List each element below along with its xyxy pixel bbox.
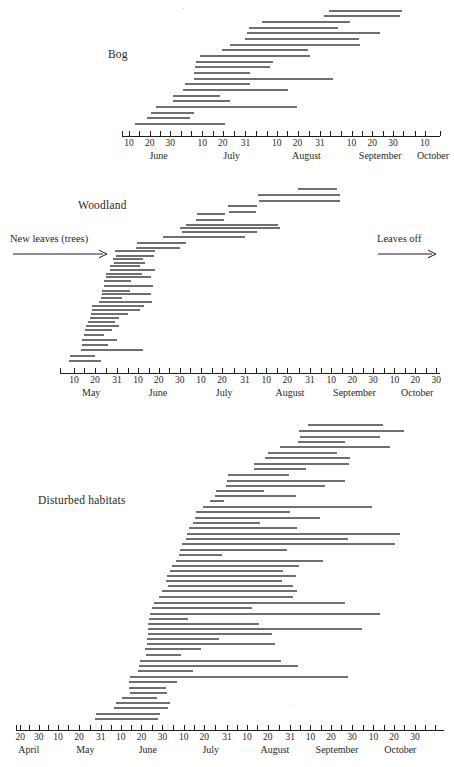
axis-tick-label: 30 bbox=[368, 375, 378, 385]
axis-month-label: June bbox=[149, 387, 167, 398]
axis-tick bbox=[106, 368, 107, 373]
span-bar bbox=[115, 250, 155, 252]
span-bar bbox=[114, 707, 168, 709]
span-bar bbox=[82, 344, 108, 346]
axis-month-label: September bbox=[316, 744, 359, 755]
axis-tick bbox=[277, 368, 278, 373]
span-bar bbox=[151, 112, 194, 114]
span-bar bbox=[228, 205, 257, 207]
span-bar bbox=[189, 527, 297, 529]
axis-baseline bbox=[60, 373, 440, 374]
axis-month-label: July bbox=[223, 150, 240, 161]
span-bar bbox=[203, 506, 372, 508]
span-bar bbox=[193, 522, 260, 524]
span-bar bbox=[101, 297, 122, 299]
span-bar bbox=[152, 607, 252, 609]
span-bar bbox=[90, 317, 119, 319]
axis-tick-label: 31 bbox=[96, 732, 106, 742]
span-bar bbox=[148, 628, 362, 630]
axis-tick bbox=[362, 131, 363, 136]
axis-tick bbox=[162, 725, 163, 730]
axis-tick bbox=[129, 131, 130, 136]
axis-tick bbox=[352, 368, 353, 373]
axis-tick-label: 20 bbox=[347, 375, 357, 385]
arrow-right-icon bbox=[13, 249, 109, 259]
span-bar bbox=[265, 457, 350, 459]
axis-tick-label: 31 bbox=[240, 375, 250, 385]
span-bar bbox=[194, 78, 333, 80]
span-bar bbox=[258, 194, 340, 196]
axis-tick bbox=[117, 368, 118, 373]
span-bar bbox=[254, 468, 306, 470]
axis-tick bbox=[425, 725, 426, 730]
axis-tick bbox=[227, 725, 228, 730]
span-bar bbox=[148, 623, 259, 625]
axis-tick bbox=[20, 725, 21, 730]
axis-tick bbox=[256, 131, 257, 136]
axis-tick bbox=[415, 368, 416, 373]
page-speck bbox=[183, 8, 184, 9]
span-bar bbox=[172, 565, 299, 567]
axis-tick-label: 10 bbox=[133, 375, 143, 385]
axis-tick-label: 10 bbox=[197, 138, 207, 148]
axis-tick bbox=[29, 725, 30, 730]
axis-tick bbox=[202, 131, 203, 136]
axis-tick bbox=[415, 131, 416, 136]
span-bar bbox=[137, 242, 186, 244]
span-bar bbox=[86, 325, 119, 327]
span-bar bbox=[69, 360, 101, 362]
span-bar bbox=[163, 236, 245, 238]
axis-month-label: July bbox=[202, 744, 219, 755]
axis-tick bbox=[256, 368, 257, 373]
axis-tick-label: 10 bbox=[179, 732, 189, 742]
axis-month-label: August bbox=[275, 387, 304, 398]
axis-tick-label: 20 bbox=[16, 732, 26, 742]
axis-baseline bbox=[122, 136, 440, 137]
axis-tick bbox=[268, 725, 269, 730]
axis-tick-label: 10 bbox=[124, 138, 134, 148]
span-bar bbox=[129, 687, 166, 689]
axis-tick-label: 31 bbox=[222, 732, 232, 742]
axis-tick bbox=[393, 131, 394, 136]
axis-tick bbox=[310, 725, 311, 730]
span-bar bbox=[104, 285, 153, 287]
span-bar bbox=[110, 265, 140, 267]
span-bar bbox=[176, 560, 323, 562]
axis-tick-label: 10 bbox=[53, 732, 63, 742]
axis-tick bbox=[39, 725, 40, 730]
axis-tick-label: 20 bbox=[282, 375, 292, 385]
span-bar bbox=[182, 543, 395, 545]
axis-month-label: June bbox=[139, 744, 157, 755]
span-bar bbox=[183, 89, 288, 91]
axis-tick bbox=[257, 725, 258, 730]
span-bar bbox=[230, 44, 360, 46]
axis-tick bbox=[331, 368, 332, 373]
axis-tick-label: 20 bbox=[137, 732, 147, 742]
page-speck bbox=[293, 705, 294, 706]
axis-tick-label: 30 bbox=[34, 732, 44, 742]
axis-tick-label: 30 bbox=[166, 138, 176, 148]
axis-tick bbox=[122, 131, 123, 136]
axis-tick bbox=[60, 368, 61, 373]
span-bar bbox=[173, 95, 220, 97]
axis-tick bbox=[237, 725, 238, 730]
axis-tick bbox=[363, 725, 364, 730]
span-bar bbox=[96, 713, 160, 715]
span-bar bbox=[229, 211, 256, 213]
axis-tick-label: 31 bbox=[315, 138, 325, 148]
span-bar bbox=[154, 602, 345, 604]
panel-label-disturbed-habitats: Disturbed habitats bbox=[38, 494, 126, 506]
span-bar bbox=[147, 117, 190, 119]
span-bar bbox=[88, 321, 115, 323]
span-bar bbox=[227, 480, 345, 482]
span-bar bbox=[186, 224, 278, 226]
axis-tick-label: 10 bbox=[262, 375, 272, 385]
axis-month-label: April bbox=[18, 744, 39, 755]
axis-tick-label: 20 bbox=[326, 732, 336, 742]
axis-tick bbox=[245, 131, 246, 136]
span-bar bbox=[92, 305, 144, 307]
span-bar bbox=[146, 654, 181, 656]
axis-month-label: August bbox=[292, 150, 321, 161]
span-bar bbox=[173, 100, 230, 102]
span-bar bbox=[280, 446, 390, 448]
